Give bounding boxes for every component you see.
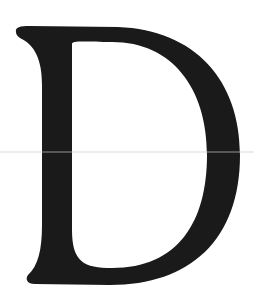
letter-d-figure	[0, 0, 254, 306]
letter-d-glyph	[0, 0, 254, 306]
scan-line	[0, 151, 254, 153]
